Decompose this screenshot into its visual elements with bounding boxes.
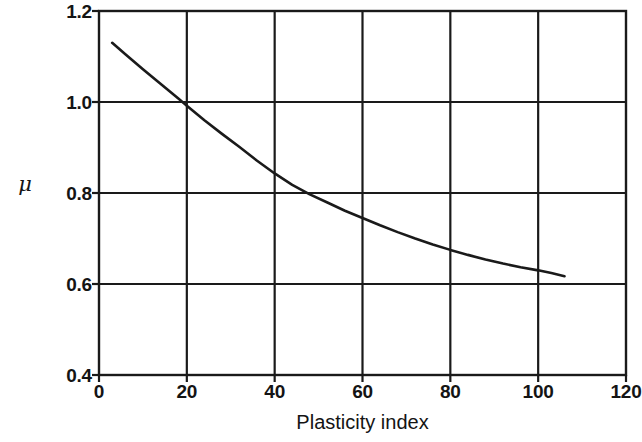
chart-figure: μ 0.40.60.81.01.2 020406080100120 Plasti… [0,0,642,442]
x-axis-title: Plasticity index [99,410,626,434]
x-tick-label: 0 [64,381,134,403]
x-tick-label: 40 [240,381,310,403]
x-axis-tick-labels: 020406080100120 [0,381,642,409]
x-tick-label: 80 [415,381,485,403]
data-series-line [112,43,564,276]
axis-ticks [92,11,626,382]
plot-area [0,0,642,442]
x-tick-label: 100 [503,381,573,403]
x-tick-label: 120 [591,381,642,403]
x-tick-label: 20 [152,381,222,403]
x-tick-label: 60 [328,381,398,403]
